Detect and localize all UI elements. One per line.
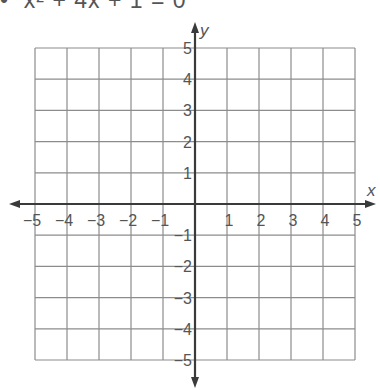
x-axis-right-arrow-icon [365,200,376,208]
y-tick-label: 4 [183,71,192,88]
x-tick-label: 4 [321,212,330,229]
y-axis-label: y [199,21,210,40]
y-axis-down-arrow-icon [191,377,199,388]
y-tick-label: 3 [183,102,192,119]
y-tick-label: −1 [174,227,192,244]
y-tick-label: −3 [174,290,192,307]
x-tick-label: 2 [257,212,266,229]
x-tick-label: 3 [289,212,298,229]
x-tick-label: −1 [151,212,169,229]
coordinate-plane: x y −5−4−3−2−112345 54321−1−2−3−4−5 [0,0,380,390]
x-tick-label: 5 [353,212,362,229]
x-tick-label: −5 [23,212,41,229]
x-axis-left-arrow-icon [9,200,20,208]
y-tick-label: −5 [174,352,192,369]
y-tick-label: 2 [183,134,192,151]
y-tick-label: 5 [183,40,192,57]
y-tick-label: 1 [183,165,192,182]
x-tick-label: −4 [55,212,73,229]
x-tick-label: −2 [119,212,137,229]
y-tick-label: −4 [174,321,192,338]
axes [9,22,376,388]
y-tick-label: −2 [174,258,192,275]
x-axis-label: x [366,181,376,200]
y-axis-up-arrow-icon [191,22,199,33]
x-tick-label: −3 [87,212,105,229]
x-tick-label: 1 [225,212,234,229]
x-tick-labels: −5−4−3−2−112345 [23,212,362,229]
